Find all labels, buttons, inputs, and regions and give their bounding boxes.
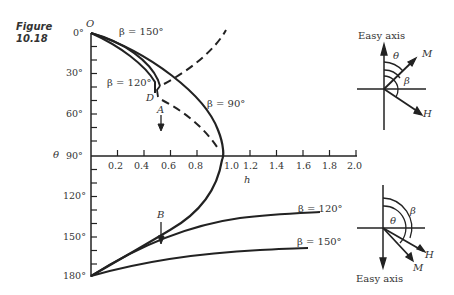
y-tick-0: 0° [73, 27, 84, 38]
x-tick-1.2: 1.2 [243, 160, 258, 171]
label-beta-150-top: β = 150° [119, 26, 164, 37]
inset-bottom-beta: β [410, 205, 416, 216]
inset-top-m: M [422, 48, 432, 59]
x-tick-0.8: 0.8 [188, 160, 203, 171]
inset-top-beta: β [404, 75, 410, 86]
inset-bottom-m: M [413, 262, 423, 273]
point-a-label: A [157, 104, 164, 115]
chart-plot [0, 0, 454, 295]
y-tick-150: 150° [63, 231, 86, 242]
inset-top-diagram [357, 44, 426, 130]
label-beta-120-bottom: β = 120° [298, 203, 343, 214]
inset-top-easy-axis: Easy axis [358, 30, 405, 41]
x-tick-1.6: 1.6 [296, 160, 311, 171]
y-ticks [91, 47, 97, 265]
y-tick-60: 60° [66, 108, 83, 119]
curve-beta-150-bottom [91, 248, 308, 276]
inset-bottom-diagram [357, 185, 425, 268]
y-axis-title: θ [53, 149, 59, 160]
x-tick-1.0: 1.0 [224, 160, 239, 171]
inset-bottom-easy-axis: Easy axis [356, 273, 403, 284]
x-tick-1.4: 1.4 [269, 160, 284, 171]
inset-top-h: H [423, 108, 432, 119]
x-tick-0.4: 0.4 [134, 160, 149, 171]
inset-bottom-h: H [425, 249, 434, 260]
y-tick-120: 120° [63, 190, 86, 201]
label-beta-150-bottom: β = 150° [297, 236, 342, 247]
origin-label: O [86, 18, 94, 29]
inset-bottom-theta: θ [390, 215, 396, 226]
x-axis-title: h [244, 174, 250, 185]
curve-beta-90 [91, 33, 223, 276]
y-tick-180: 180° [63, 270, 86, 281]
x-ticks [118, 150, 357, 156]
label-beta-120-top: β = 120° [107, 77, 152, 88]
annotation-arrows [158, 115, 164, 244]
x-tick-0.2: 0.2 [108, 160, 123, 171]
point-b-label: B [157, 209, 164, 220]
y-tick-90: 90° [66, 150, 83, 161]
x-tick-1.8: 1.8 [322, 160, 337, 171]
x-tick-0.6: 0.6 [161, 160, 176, 171]
y-tick-30: 30° [66, 67, 83, 78]
inset-top-theta: θ [393, 50, 399, 61]
x-tick-2.0: 2.0 [347, 160, 362, 171]
label-beta-90: β = 90° [207, 98, 245, 109]
point-d-label: D [146, 92, 154, 103]
